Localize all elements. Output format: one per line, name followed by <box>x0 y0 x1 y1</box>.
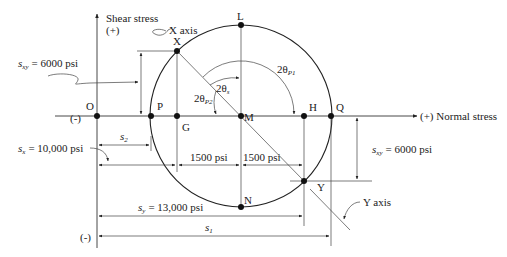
label-G: G <box>182 121 190 133</box>
point-G <box>174 113 180 119</box>
y-axis-label: Y axis <box>363 196 391 208</box>
sx-leader <box>90 148 108 161</box>
sxy-right-label: sxy= 6000 psi <box>372 143 432 157</box>
point-Y <box>301 178 307 184</box>
point-Q <box>328 113 334 119</box>
normal-stress-negative: (-) <box>70 112 81 125</box>
sx-label: sx= 10,000 psi <box>18 142 83 156</box>
label-H: H <box>309 101 317 113</box>
half-right-label: 1500 psi <box>243 151 281 163</box>
angle-2theta-s-label: 2θs <box>216 82 230 96</box>
label-Y: Y <box>317 181 325 193</box>
y-axis-extension <box>310 189 350 230</box>
point-O <box>94 113 100 119</box>
label-O: O <box>86 100 94 112</box>
shear-stress-negative: (-) <box>80 231 91 244</box>
label-M: M <box>244 111 254 123</box>
point-X <box>174 48 180 54</box>
label-X: X <box>173 35 181 47</box>
angle-2theta-p2-arc <box>214 91 216 114</box>
s1-label: s1 <box>205 221 213 235</box>
mohrs-circle-diagram: Shear stress (+) (-) (-) (+) Normal stre… <box>0 0 507 257</box>
label-N: N <box>244 194 252 206</box>
shear-stress-positive: (+) <box>106 24 120 37</box>
angle-2theta-p1-label: 2θP1 <box>277 63 296 77</box>
s2-label: s2 <box>120 130 128 144</box>
label-P: P <box>157 100 163 112</box>
x-axis-label: X axis <box>169 24 197 36</box>
point-P <box>148 113 154 119</box>
shear-stress-label: Shear stress <box>106 12 158 24</box>
sxy-left-label: sxy= 6000 psi <box>18 57 78 71</box>
label-L: L <box>237 10 244 22</box>
y-axis-leader <box>344 202 360 219</box>
sy-label: sy= 13,000 psi <box>138 201 203 215</box>
point-L <box>238 22 244 28</box>
half-left-label: 1500 psi <box>190 151 228 163</box>
point-H <box>301 113 307 119</box>
sxy-left-leader <box>48 74 138 84</box>
normal-stress-label: (+) Normal stress <box>420 110 497 123</box>
label-Q: Q <box>336 101 344 113</box>
angle-2theta-p2-label: 2θP2 <box>194 92 213 106</box>
